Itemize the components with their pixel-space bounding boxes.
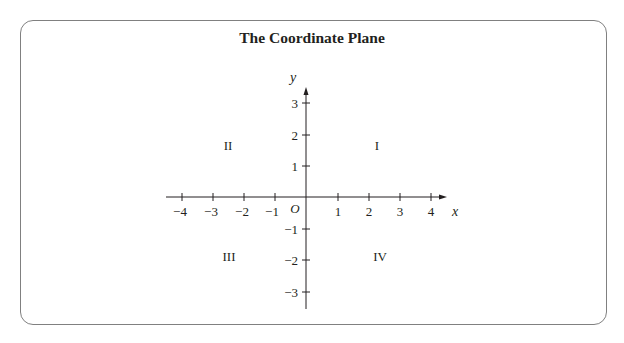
quadrant-label-iii: III: [223, 249, 236, 264]
x-tick-label: −2: [235, 204, 249, 219]
quadrant-label-ii: II: [224, 138, 233, 153]
quadrant-label-iv: IV: [373, 249, 387, 264]
y-axis-label: y: [288, 70, 297, 85]
x-axis-arrow-icon: [439, 195, 447, 200]
x-tick-label: 2: [366, 204, 373, 219]
quadrant-label-i: I: [375, 138, 379, 153]
y-tick-label: −2: [284, 253, 298, 268]
origin-label: O: [290, 201, 300, 216]
y-tick-label: 1: [292, 159, 299, 174]
x-tick-label: −3: [204, 204, 218, 219]
x-tick-label: −1: [265, 204, 279, 219]
coordinate-plane: −4 −3 −2 −1 1 2 3 4 3 2 1 −1 −2 −3 x y O…: [0, 0, 624, 343]
y-tick-label: 2: [292, 128, 299, 143]
y-tick-label: 3: [292, 96, 299, 111]
x-axis-label: x: [451, 204, 459, 219]
y-tick-label: −3: [284, 285, 298, 300]
x-tick-label: 4: [428, 204, 435, 219]
x-tick-label: 3: [397, 204, 404, 219]
y-tick-label: −1: [284, 222, 298, 237]
x-tick-label: −4: [173, 204, 187, 219]
x-tick-label: 1: [335, 204, 342, 219]
y-axis-arrow-icon: [304, 87, 309, 95]
